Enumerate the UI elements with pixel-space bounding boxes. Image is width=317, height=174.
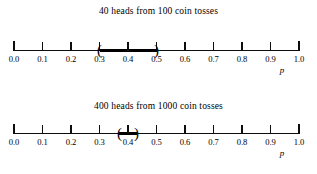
confidence-interval-panel-2: 400 heads from 1000 coin tosses 0.00.10.… bbox=[0, 87, 317, 174]
axis-tick bbox=[241, 125, 242, 134]
interval-open-paren: ( bbox=[117, 126, 122, 141]
interval-close-paren: ) bbox=[154, 43, 159, 58]
point-estimate-tick bbox=[127, 43, 128, 51]
axis-tick bbox=[13, 124, 15, 134]
axis-tick-label: 1.0 bbox=[294, 54, 304, 64]
axis-tick bbox=[270, 125, 271, 134]
axis-tick-label: 0.4 bbox=[123, 137, 133, 147]
axis-tick bbox=[298, 124, 300, 134]
axis-tick-label: 0.9 bbox=[265, 54, 275, 64]
panel-title-2: 400 heads from 1000 coin tosses bbox=[0, 101, 317, 111]
panel-title-1: 40 heads from 100 coin tosses bbox=[0, 6, 317, 16]
axis-label-p-1: p bbox=[280, 65, 285, 75]
axis-tick bbox=[70, 42, 71, 51]
axis-tick bbox=[213, 42, 214, 51]
axis-tick bbox=[270, 42, 271, 51]
axis-tick bbox=[99, 125, 100, 134]
axis-tick bbox=[184, 42, 185, 51]
interval-close-paren: ) bbox=[134, 126, 139, 141]
confidence-interval-panel-1: 40 heads from 100 coin tosses 0.00.10.20… bbox=[0, 0, 317, 87]
axis-tick-label: 0.3 bbox=[94, 137, 104, 147]
axis-tick-label: 1.0 bbox=[294, 137, 304, 147]
axis-tick bbox=[70, 125, 71, 134]
axis-tick bbox=[13, 41, 15, 51]
axis-tick-label: 0.6 bbox=[180, 54, 190, 64]
axis-tick-label: 0.5 bbox=[151, 137, 161, 147]
axis-tick bbox=[42, 42, 43, 51]
axis-tick-label: 0.8 bbox=[237, 137, 247, 147]
axis-tick bbox=[42, 125, 43, 134]
axis-tick-label: 0.1 bbox=[37, 54, 47, 64]
axis-tick bbox=[298, 41, 300, 51]
axis-tick-label: 0.7 bbox=[208, 137, 218, 147]
axis-tick-label: 0.0 bbox=[9, 54, 19, 64]
point-estimate-tick bbox=[127, 126, 128, 134]
axis-tick bbox=[156, 125, 157, 134]
axis-tick-label: 0.9 bbox=[265, 137, 275, 147]
axis-tick-label: 0.7 bbox=[208, 54, 218, 64]
axis-tick-label: 0.2 bbox=[66, 137, 76, 147]
axis-tick-label: 0.8 bbox=[237, 54, 247, 64]
number-line-2: 0.00.10.20.30.40.50.60.70.80.91.0 () p bbox=[0, 120, 317, 166]
axis-tick-label: 0.4 bbox=[123, 54, 133, 64]
axis-label-p-2: p bbox=[280, 148, 285, 158]
axis-tick bbox=[213, 125, 214, 134]
axis-tick-label: 0.6 bbox=[180, 137, 190, 147]
number-line-1: 0.00.10.20.30.40.50.60.70.80.91.0 () p bbox=[0, 37, 317, 83]
axis-tick-label: 0.1 bbox=[37, 137, 47, 147]
axis-tick bbox=[241, 42, 242, 51]
interval-open-paren: ( bbox=[97, 43, 102, 58]
axis-tick bbox=[184, 125, 185, 134]
axis-tick-label: 0.2 bbox=[66, 54, 76, 64]
axis-tick-label: 0.0 bbox=[9, 137, 19, 147]
